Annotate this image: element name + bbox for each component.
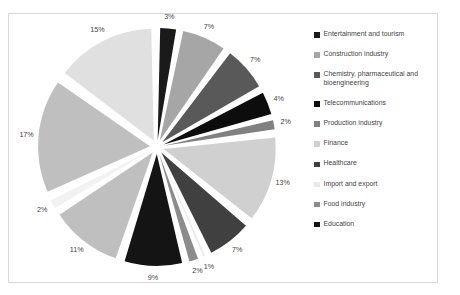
legend-item[interactable]: Import and export (314, 180, 438, 189)
legend-swatch-icon (314, 141, 320, 147)
legend-item-label: Education (324, 220, 355, 229)
legend-swatch-icon (314, 182, 320, 188)
legend-item-label: Finance (324, 139, 349, 148)
legend-item[interactable]: Production industry (314, 119, 438, 128)
pie-slice-label: 7% (204, 22, 215, 31)
pie-slice-label: 9% (148, 273, 159, 282)
legend-item-label: Telecommunications (324, 99, 386, 108)
legend-item-label: Chemistry, pharmaceutical and bioenginee… (324, 70, 439, 87)
legend-swatch-icon (314, 222, 320, 228)
legend-item[interactable]: Entertainment and tourism (314, 30, 438, 39)
legend-item-label: Construction industry (324, 50, 389, 59)
legend-item[interactable]: Telecommunications (314, 99, 438, 108)
pie-slice-group (38, 28, 276, 266)
pie-slice-label: 2% (37, 205, 48, 214)
legend-swatch-icon (314, 162, 320, 168)
legend-item[interactable]: Construction industry (314, 50, 438, 59)
legend-item-label: Entertainment and tourism (324, 30, 405, 39)
legend-item-label: Production industry (324, 119, 383, 128)
pie-slice-label: 17% (19, 130, 34, 139)
pie-slice-label: 7% (250, 55, 261, 64)
legend-swatch-icon (314, 121, 320, 127)
pie-slice-label: 1% (204, 262, 215, 271)
legend-swatch-icon (314, 52, 320, 58)
legend-swatch-icon (314, 101, 320, 107)
pie-slice-label: 15% (90, 25, 105, 34)
legend-item[interactable]: Education (314, 220, 438, 229)
legend: Entertainment and tourismConstruction in… (314, 30, 438, 280)
pie-slice-label: 3% (164, 14, 175, 20)
legend-item-label: Food industry (324, 200, 366, 209)
legend-item[interactable]: Food industry (314, 200, 438, 209)
legend-swatch-icon (314, 72, 320, 78)
legend-item-label: Import and export (324, 180, 378, 189)
pie-slice-label: 11% (70, 245, 84, 254)
pie-slice-label: 13% (276, 178, 291, 187)
pie-slice-label: 4% (274, 94, 285, 103)
pie-chart: 3%7%7%4%2%13%7%1%2%9%11%2%17%15% (9, 14, 309, 282)
pie-slice-label: 2% (192, 266, 203, 275)
legend-item[interactable]: Finance (314, 139, 438, 148)
pie-chart-svg: 3%7%7%4%2%13%7%1%2%9%11%2%17%15% (9, 14, 309, 282)
pie-slice-label: 2% (280, 117, 291, 126)
pie-slice-label: 7% (232, 245, 243, 254)
legend-swatch-icon (314, 32, 320, 38)
legend-swatch-icon (314, 202, 320, 208)
chart-frame: 3%7%7%4%2%13%7%1%2%9%11%2%17%15% Enterta… (8, 13, 438, 283)
legend-item-label: Healthcare (324, 159, 357, 168)
legend-item[interactable]: Healthcare (314, 159, 438, 168)
legend-item[interactable]: Chemistry, pharmaceutical and bioenginee… (314, 70, 438, 87)
